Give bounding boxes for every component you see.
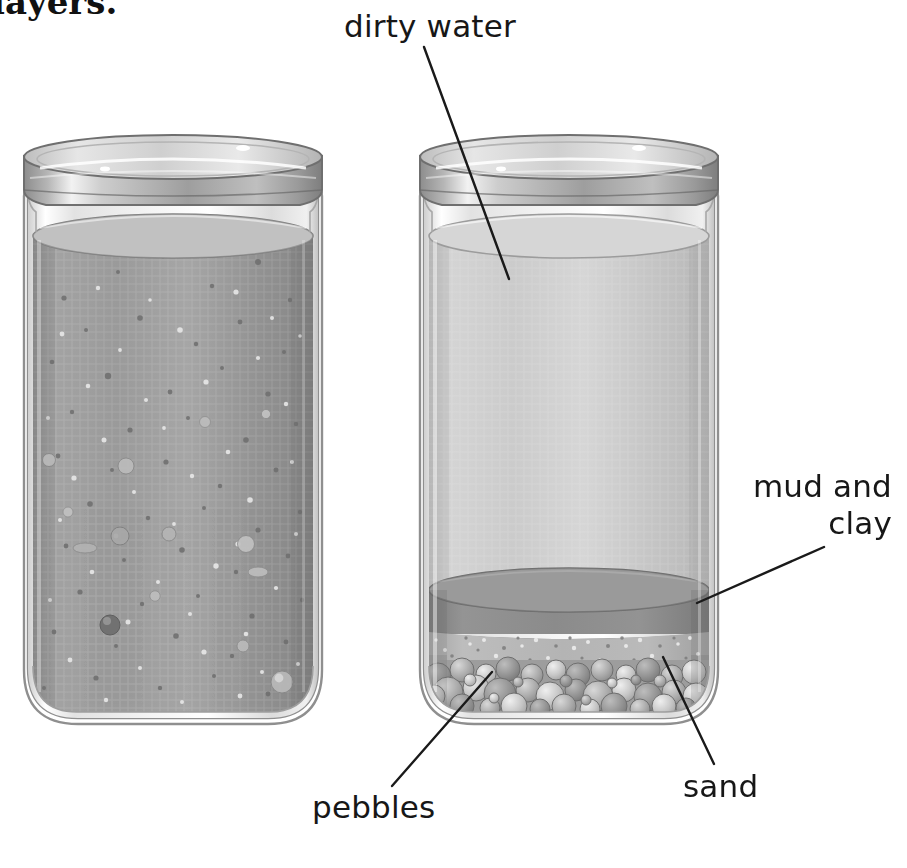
jar-left [24,135,322,724]
label-dirty-water: dirty water [344,8,516,45]
jar-right-lid [420,135,718,205]
illustration-canvas: layers. [0,0,907,868]
label-mud-and-clay-line2: clay [828,505,892,541]
jar-right [420,135,718,724]
jar-right-water-surface [429,214,709,258]
label-mud-and-clay: mud andclay [636,468,892,542]
jars-illustration [0,0,907,868]
jar-left-lid [24,135,322,205]
jar-left-water [33,236,313,712]
label-mud-and-clay-line1: mud and [753,468,892,504]
label-sand: sand [683,768,758,805]
label-pebbles: pebbles [312,789,435,826]
jar-right-clear-water [429,236,709,600]
